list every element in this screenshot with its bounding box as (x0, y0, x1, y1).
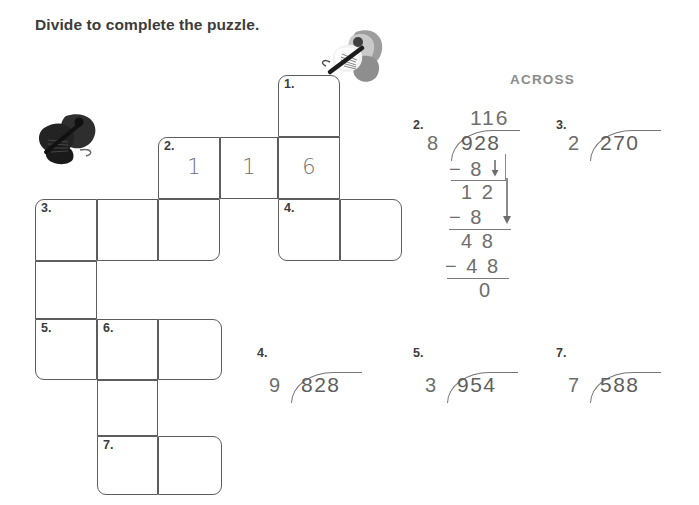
divisor-value: 2 (568, 132, 579, 155)
butterfly-light-icon (312, 26, 384, 92)
cell-value: 1 (221, 155, 277, 179)
bring-down-arrow-2 (501, 178, 515, 228)
dividend-value: 928 (461, 131, 501, 155)
crossword-cell-c2c[interactable]: 6 (278, 137, 340, 199)
divisor-value: 8 (427, 132, 438, 155)
crossword-cell-c7b[interactable] (158, 436, 222, 495)
across-section-heading: ACROSS (510, 72, 575, 87)
problem-number: 2. (413, 118, 423, 132)
clue-number: 5. (41, 322, 51, 336)
divisor-value: 3 (425, 374, 436, 397)
work-step-4: 4 8 (461, 230, 495, 253)
work-step-5: − 4 8 (445, 255, 500, 278)
crossword-cell-c3d[interactable] (35, 261, 97, 319)
divisor-value: 7 (568, 374, 579, 397)
crossword-cell-c6c[interactable] (97, 380, 158, 436)
dividend-value: 270 (600, 131, 640, 155)
divisor-value: 9 (269, 374, 280, 397)
cell-value: 1 (159, 155, 219, 179)
cell-value: 6 (279, 155, 339, 179)
problem-number: 5. (413, 346, 423, 360)
work-step-3: − 8 (449, 206, 483, 229)
work-step-2: 1 2 (461, 181, 495, 204)
clue-number: 4. (284, 202, 294, 216)
problem-number: 4. (257, 346, 267, 360)
crossword-cell-c3c[interactable] (158, 199, 220, 261)
clue-number: 3. (41, 202, 51, 216)
crossword-cell-c5a[interactable]: 5. (35, 319, 97, 380)
crossword-cell-c6b[interactable] (158, 319, 222, 380)
work-guide-line (505, 154, 506, 180)
crossword-cell-c2a[interactable]: 2.1 (158, 137, 220, 199)
crossword-cell-c4b[interactable] (340, 199, 402, 261)
crossword-cell-c2b[interactable]: 1 (220, 137, 278, 199)
crossword-cell-c3a[interactable]: 3. (35, 199, 97, 261)
clue-number: 1. (284, 78, 294, 92)
bring-down-arrow-1 (490, 160, 502, 180)
crossword-cell-c4a[interactable]: 4. (278, 199, 340, 261)
problem-number: 7. (556, 346, 566, 360)
problem-number: 3. (556, 118, 566, 132)
work-step-1: − 8 (449, 158, 483, 181)
dividend-value: 588 (600, 373, 640, 397)
work-rule-3 (447, 278, 509, 279)
quotient-value[interactable]: 116 (470, 106, 509, 130)
dividend-value: 954 (457, 373, 497, 397)
crossword-cell-c7a[interactable]: 7. (97, 436, 158, 495)
clue-number: 6. (103, 322, 113, 336)
clue-number: 7. (103, 439, 113, 453)
work-step-6: 0 (479, 279, 492, 302)
crossword-cell-c3b[interactable] (97, 199, 158, 261)
page-title: Divide to complete the puzzle. (35, 16, 259, 34)
dividend-value: 828 (301, 373, 341, 397)
butterfly-dark-icon (36, 112, 102, 170)
crossword-cell-c6a[interactable]: 6. (97, 319, 158, 380)
clue-number: 2. (164, 140, 174, 154)
worksheet-page: Divide to complete the puzzle. ACROSS 1.… (0, 0, 699, 505)
